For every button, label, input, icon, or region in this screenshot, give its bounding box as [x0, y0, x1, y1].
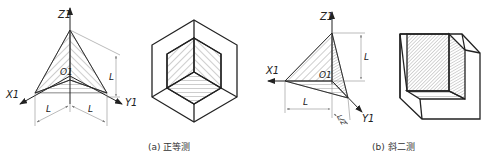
axis-label-y1-b: Y1	[362, 113, 374, 124]
axis-label-z1-a: Z1	[57, 9, 71, 20]
oblique-cube-b	[400, 34, 480, 119]
dim-label-y-a: L	[88, 104, 93, 114]
dim-label-y-b: L/2	[335, 113, 348, 127]
axis-label-x1-a: X1	[5, 89, 19, 100]
projection-diagram: Z1 O1 X1 Y1 L L L (a) 正等测 Z1	[0, 0, 489, 158]
origin-label-b: O1	[319, 70, 332, 80]
dim-label-z-b: L	[364, 52, 369, 62]
caption-b: (b) 斜二测	[372, 141, 415, 152]
axis-label-y1-a: Y1	[125, 97, 137, 108]
origin-label-a: O1	[60, 67, 73, 77]
dim-label-x-b: L	[303, 97, 308, 107]
dim-label-z-a: L	[109, 72, 114, 82]
dim-label-x-a: L	[46, 104, 51, 114]
axis-label-z1-b: Z1	[319, 11, 333, 22]
axis-label-x1-b: X1	[265, 65, 279, 76]
isometric-cube-a	[152, 20, 237, 122]
caption-a: (a) 正等测	[148, 141, 190, 152]
figure-b-axes	[268, 12, 365, 124]
